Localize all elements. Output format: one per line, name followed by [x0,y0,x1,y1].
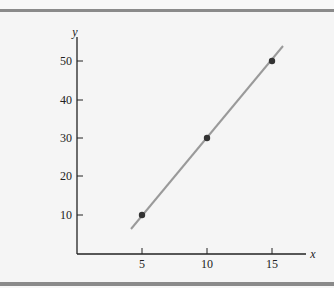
x-tick-label: 5 [139,257,145,271]
x-tick-label: 15 [266,257,278,271]
y-tick-label: 10 [60,208,72,222]
y-tick-label: 20 [60,169,72,183]
y-tick-label: 40 [60,93,72,107]
y-tick-label: 30 [60,131,72,145]
y-tick-label: 50 [60,54,72,68]
data-point [139,212,145,218]
scatter-plot: 50 40 30 20 10 5 10 15 y x [0,0,334,288]
x-axis-label: x [309,247,316,261]
x-tick-label: 10 [201,257,213,271]
data-point [204,135,210,141]
y-ticks [77,61,83,215]
y-axis-label: y [71,25,78,39]
data-point [269,58,275,64]
x-ticks [142,248,272,254]
